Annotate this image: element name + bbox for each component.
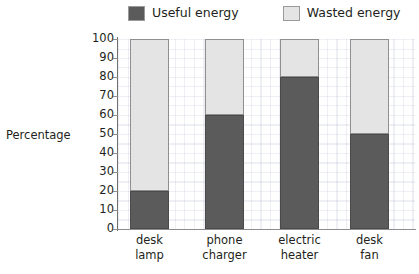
y-axis-tick-mark bbox=[113, 77, 118, 78]
y-axis-tick-label: 50 bbox=[99, 128, 114, 140]
category-label-line: phone bbox=[182, 233, 268, 248]
y-axis-tick-label: 20 bbox=[99, 185, 114, 197]
x-axis-category-label: desklamp bbox=[107, 233, 193, 263]
y-axis-title: Percentage bbox=[6, 130, 71, 142]
stacked-bar-chart: Useful energy Wasted energy Percentage 0… bbox=[0, 0, 419, 274]
y-axis-tick-mark bbox=[113, 191, 118, 192]
x-axis-category-label: phonecharger bbox=[182, 233, 268, 263]
legend-entry-useful-energy[interactable]: Useful energy bbox=[128, 6, 239, 21]
bar-phone-charger[interactable] bbox=[205, 39, 244, 229]
bar-segment-useful-energy[interactable] bbox=[280, 77, 319, 229]
y-axis-tick-mark bbox=[113, 134, 118, 135]
y-axis-tick-mark bbox=[113, 153, 118, 154]
y-axis-tick-mark bbox=[113, 172, 118, 173]
bar-segment-wasted-energy[interactable] bbox=[130, 39, 169, 191]
y-axis-tick-label: 90 bbox=[99, 52, 114, 64]
x-axis-category-label: deskfan bbox=[327, 233, 413, 263]
category-label-line: charger bbox=[182, 248, 268, 263]
y-axis-tick-mark bbox=[113, 210, 118, 211]
y-axis-tick-mark bbox=[113, 96, 118, 97]
y-axis-tick-label: 100 bbox=[92, 33, 114, 45]
y-axis-tick-mark bbox=[113, 229, 118, 230]
y-axis-tick-label: 70 bbox=[99, 90, 114, 102]
bar-segment-useful-energy[interactable] bbox=[350, 134, 389, 229]
bar-desk-fan[interactable] bbox=[350, 39, 389, 229]
y-axis-tick-mark bbox=[113, 39, 118, 40]
x-axis-line bbox=[117, 229, 416, 230]
category-label-line: desk bbox=[107, 233, 193, 248]
y-axis-tick-label: 60 bbox=[99, 109, 114, 121]
y-axis-tick-label: 40 bbox=[99, 147, 114, 159]
legend-entry-wasted-energy[interactable]: Wasted energy bbox=[283, 6, 401, 21]
y-axis-tick-label: 10 bbox=[99, 204, 114, 216]
y-axis-tick-mark bbox=[113, 115, 118, 116]
legend-swatch-useful-energy bbox=[128, 6, 145, 21]
legend-label-useful-energy: Useful energy bbox=[152, 7, 239, 20]
chart-legend: Useful energy Wasted energy bbox=[128, 2, 400, 24]
bar-segment-wasted-energy[interactable] bbox=[205, 39, 244, 115]
category-label-line: desk bbox=[327, 233, 413, 248]
y-axis-tick-mark bbox=[113, 58, 118, 59]
bar-desk-lamp[interactable] bbox=[130, 39, 169, 229]
y-axis-tick-label: 80 bbox=[99, 71, 114, 83]
legend-label-wasted-energy: Wasted energy bbox=[307, 7, 401, 20]
bar-segment-useful-energy[interactable] bbox=[205, 115, 244, 229]
category-label-line: fan bbox=[327, 248, 413, 263]
bar-electric-heater[interactable] bbox=[280, 39, 319, 229]
y-axis-tick-label: 30 bbox=[99, 166, 114, 178]
legend-swatch-wasted-energy bbox=[283, 6, 300, 21]
bar-segment-useful-energy[interactable] bbox=[130, 191, 169, 229]
bar-segment-wasted-energy[interactable] bbox=[280, 39, 319, 77]
category-label-line: lamp bbox=[107, 248, 193, 263]
bar-segment-wasted-energy[interactable] bbox=[350, 39, 389, 134]
